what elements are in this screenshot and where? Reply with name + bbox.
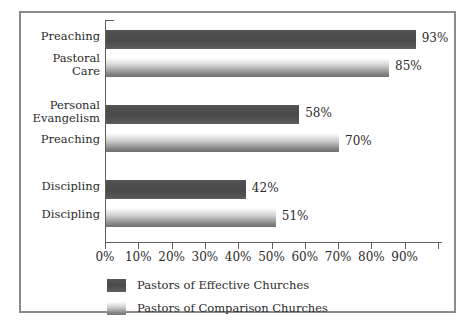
bar-value-label: 85% <box>395 59 422 73</box>
bar <box>106 30 416 49</box>
x-tick <box>338 243 339 249</box>
bar-category-label: Pastoral Care <box>0 52 100 77</box>
y-axis-top-cap <box>105 20 114 21</box>
bar-row: Discipling51% <box>21 208 458 227</box>
bar-value-label: 93% <box>422 31 449 45</box>
bar-category-label: Personal Evangelism <box>0 99 100 124</box>
x-tick-label: 80% <box>358 250 385 264</box>
bar-value-label: 51% <box>282 209 309 223</box>
legend-item: Pastors of Effective Churches <box>107 275 328 295</box>
bar <box>106 58 389 77</box>
x-tick <box>105 243 106 249</box>
x-axis-line <box>105 242 442 243</box>
x-tick <box>172 243 173 249</box>
x-tick-label: 20% <box>158 250 185 264</box>
x-tick-label: 50% <box>258 250 285 264</box>
legend-swatch <box>107 279 126 292</box>
legend-item: Pastors of Comparison Churches <box>107 298 328 318</box>
bar <box>106 208 276 227</box>
bar <box>106 180 246 199</box>
x-tick <box>272 243 273 249</box>
bar-row: Preaching70% <box>21 133 458 152</box>
bar <box>106 105 299 124</box>
bar-category-label: Preaching <box>0 133 100 146</box>
x-tick-label: 30% <box>192 250 219 264</box>
x-tick <box>205 243 206 249</box>
x-tick <box>238 243 239 249</box>
x-tick <box>371 243 372 249</box>
bar-row: Personal Evangelism58% <box>21 105 458 124</box>
plot-area: Preaching93%Pastoral Care85%Personal Eva… <box>21 13 458 315</box>
legend-label: Pastors of Effective Churches <box>137 278 309 292</box>
x-tick <box>305 243 306 249</box>
x-tick-label: 60% <box>291 250 318 264</box>
legend-swatch <box>107 302 126 315</box>
x-tick-label: 70% <box>325 250 352 264</box>
x-tick-label: 0% <box>95 250 114 264</box>
bar-value-label: 58% <box>305 106 332 120</box>
x-tick-label: 10% <box>125 250 152 264</box>
bar-value-label: 70% <box>345 134 372 148</box>
x-tick <box>405 243 406 249</box>
bar-row: Pastoral Care85% <box>21 58 458 77</box>
bar <box>106 133 339 152</box>
bar-category-label: Discipling <box>0 208 100 221</box>
x-tick <box>138 243 139 249</box>
legend-label: Pastors of Comparison Churches <box>137 301 328 315</box>
bar-row: Discipling42% <box>21 180 458 199</box>
bar-value-label: 42% <box>252 181 279 195</box>
bar-category-label: Discipling <box>0 180 100 193</box>
bar-row: Preaching93% <box>21 30 458 49</box>
x-tick-label: 40% <box>225 250 252 264</box>
x-tick-label: 90% <box>391 250 418 264</box>
bar-category-label: Preaching <box>0 30 100 43</box>
chart-figure: Preaching93%Pastoral Care85%Personal Eva… <box>19 11 456 313</box>
chart-legend: Pastors of Effective ChurchesPastors of … <box>107 275 328 321</box>
x-tick-end <box>438 243 439 249</box>
